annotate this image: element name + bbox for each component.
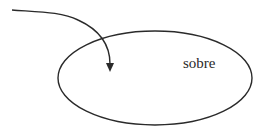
ellipse-label: sobre [183, 55, 216, 71]
region-ellipse [58, 31, 252, 125]
curved-arrow [12, 10, 110, 64]
arrowhead-icon [106, 63, 114, 72]
diagram-canvas: sobre [0, 0, 265, 130]
